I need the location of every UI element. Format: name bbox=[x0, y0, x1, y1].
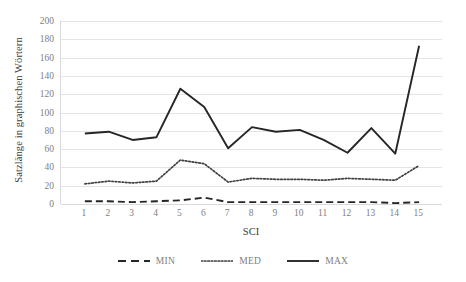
x-axis-tick-label: 13 bbox=[358, 207, 382, 219]
legend-swatch-max-icon bbox=[287, 256, 319, 266]
y-axis-tick-label: 20 bbox=[22, 181, 54, 191]
x-axis-tick-label: 5 bbox=[167, 207, 191, 219]
x-axis-tick-label: 9 bbox=[263, 207, 287, 219]
y-axis-tick-label: 0 bbox=[22, 199, 54, 209]
y-axis-tick-label: 100 bbox=[22, 108, 54, 118]
x-axis-tick-label: 2 bbox=[96, 207, 120, 219]
series-lines bbox=[61, 21, 443, 204]
x-axis-tick-label: 14 bbox=[382, 207, 406, 219]
plot-area bbox=[60, 21, 442, 204]
y-axis-tick-label: 200 bbox=[22, 16, 54, 26]
x-axis-tick-label: 11 bbox=[311, 207, 335, 219]
y-axis-tick-label: 140 bbox=[22, 71, 54, 81]
series-line-max bbox=[85, 46, 419, 154]
x-axis-tick-label: 4 bbox=[144, 207, 168, 219]
legend-swatch-min-icon bbox=[118, 256, 150, 266]
x-axis-tick-labels: 123456789101112131415 bbox=[60, 207, 442, 221]
legend-label: MAX bbox=[325, 256, 348, 266]
y-axis-tick-labels: 200180160140120100806040200 bbox=[22, 15, 54, 205]
series-line-med bbox=[85, 160, 419, 184]
y-axis-tick-label: 60 bbox=[22, 144, 54, 154]
y-axis-tick-label: 160 bbox=[22, 53, 54, 63]
gridline bbox=[61, 204, 442, 205]
x-axis-tick-label: 10 bbox=[287, 207, 311, 219]
legend-label: MED bbox=[239, 256, 261, 266]
x-axis-tick-label: 7 bbox=[215, 207, 239, 219]
y-axis-tick-label: 120 bbox=[22, 89, 54, 99]
x-axis-tick-label: 12 bbox=[335, 207, 359, 219]
y-axis-tick-label: 80 bbox=[22, 126, 54, 136]
legend-label: MIN bbox=[156, 256, 175, 266]
legend-item-min[interactable]: MIN bbox=[118, 256, 175, 266]
x-axis-tick-label: 15 bbox=[406, 207, 430, 219]
legend-item-max[interactable]: MAX bbox=[287, 256, 348, 266]
x-axis-title: SCI bbox=[60, 226, 442, 237]
y-axis-tick-label: 40 bbox=[22, 162, 54, 172]
y-axis-tick-label: 180 bbox=[22, 34, 54, 44]
x-axis-tick-label: 6 bbox=[191, 207, 215, 219]
legend-swatch-med-icon bbox=[201, 256, 233, 266]
x-axis-tick-label: 8 bbox=[239, 207, 263, 219]
line-chart: Satzlänge in graphischen Wörtern 2001801… bbox=[0, 0, 466, 282]
x-axis-tick-label: 3 bbox=[120, 207, 144, 219]
chart-legend: MINMEDMAX bbox=[0, 256, 466, 266]
x-axis-tick-label: 1 bbox=[72, 207, 96, 219]
series-line-min bbox=[85, 198, 419, 203]
legend-item-med[interactable]: MED bbox=[201, 256, 261, 266]
